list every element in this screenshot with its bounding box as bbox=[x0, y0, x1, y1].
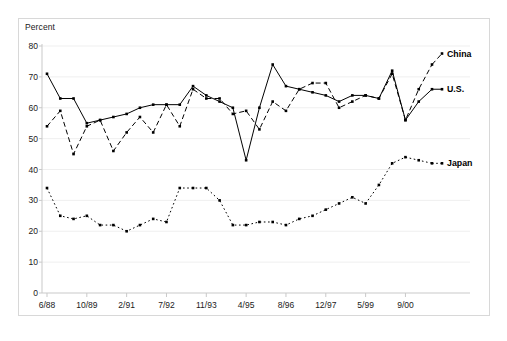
data-point bbox=[285, 224, 288, 227]
y-tick-label: 60 bbox=[16, 103, 38, 113]
data-point bbox=[152, 218, 155, 221]
data-point bbox=[351, 100, 354, 103]
data-point bbox=[271, 100, 274, 103]
data-point bbox=[417, 100, 420, 103]
data-point bbox=[298, 218, 301, 221]
data-point bbox=[165, 221, 168, 224]
data-point bbox=[391, 69, 394, 72]
data-point bbox=[218, 100, 221, 103]
data-point bbox=[364, 202, 367, 205]
data-point bbox=[59, 215, 62, 218]
data-point bbox=[311, 82, 314, 85]
data-point bbox=[192, 85, 195, 88]
data-point bbox=[441, 162, 444, 165]
y-tick-label: 30 bbox=[16, 195, 38, 205]
data-point bbox=[192, 187, 195, 190]
data-point bbox=[271, 63, 274, 66]
data-point bbox=[258, 128, 261, 131]
data-point bbox=[311, 215, 314, 218]
x-tick-label: 4/95 bbox=[225, 300, 267, 310]
data-point bbox=[378, 184, 381, 187]
x-tick-label: 2/91 bbox=[106, 300, 148, 310]
data-point bbox=[285, 85, 288, 88]
data-point bbox=[245, 159, 248, 162]
x-tick-label: 12/97 bbox=[305, 300, 347, 310]
y-tick-label: 0 bbox=[16, 288, 38, 298]
data-point bbox=[72, 97, 75, 100]
y-tick-label: 10 bbox=[16, 257, 38, 267]
data-point bbox=[324, 208, 327, 211]
data-point bbox=[46, 72, 49, 75]
data-point bbox=[125, 113, 128, 116]
data-point bbox=[139, 116, 142, 119]
x-tick-label: 9/00 bbox=[384, 300, 426, 310]
data-point bbox=[72, 218, 75, 221]
data-point bbox=[245, 110, 248, 113]
data-point bbox=[378, 97, 381, 100]
data-point bbox=[404, 156, 407, 159]
data-point bbox=[86, 125, 89, 128]
data-point bbox=[417, 88, 420, 91]
data-point bbox=[324, 94, 327, 97]
data-point bbox=[417, 159, 420, 162]
data-point bbox=[86, 215, 89, 218]
data-point bbox=[391, 162, 394, 165]
series-line-china bbox=[47, 65, 432, 155]
chart-screenshot: Percent 010203040506070806/8810/892/917/… bbox=[0, 0, 507, 341]
series-label-china: China bbox=[447, 49, 471, 59]
data-point bbox=[338, 106, 341, 109]
data-point bbox=[165, 103, 168, 106]
data-point bbox=[285, 110, 288, 113]
y-tick-label: 80 bbox=[16, 41, 38, 51]
chart-plot-area bbox=[0, 0, 507, 341]
data-point bbox=[391, 72, 394, 75]
data-point bbox=[205, 94, 208, 97]
data-point bbox=[205, 97, 208, 100]
data-point bbox=[441, 88, 444, 91]
data-point bbox=[112, 150, 115, 153]
data-point bbox=[178, 103, 181, 106]
y-tick-label: 50 bbox=[16, 134, 38, 144]
data-point bbox=[205, 187, 208, 190]
data-point bbox=[125, 230, 128, 233]
series-label-japan: Japan bbox=[447, 158, 472, 168]
data-point bbox=[192, 88, 195, 91]
data-point bbox=[152, 103, 155, 106]
data-point bbox=[271, 221, 274, 224]
x-tick-label: 7/92 bbox=[145, 300, 187, 310]
data-point bbox=[59, 97, 62, 100]
y-tick-label: 20 bbox=[16, 226, 38, 236]
data-point bbox=[112, 116, 115, 119]
x-tick-label: 11/93 bbox=[185, 300, 227, 310]
data-point bbox=[245, 224, 248, 227]
data-point bbox=[99, 224, 102, 227]
data-point bbox=[99, 119, 102, 122]
data-point bbox=[232, 113, 235, 116]
data-point bbox=[351, 196, 354, 199]
data-point bbox=[178, 187, 181, 190]
x-tick-label: 6/88 bbox=[26, 300, 68, 310]
data-point bbox=[441, 52, 444, 55]
data-point bbox=[72, 153, 75, 156]
y-tick-label: 70 bbox=[16, 72, 38, 82]
data-point bbox=[338, 202, 341, 205]
data-point bbox=[178, 125, 181, 128]
data-point bbox=[258, 221, 261, 224]
x-tick-label: 5/99 bbox=[345, 300, 387, 310]
data-point bbox=[46, 187, 49, 190]
data-point bbox=[139, 106, 142, 109]
x-tick-label: 10/89 bbox=[66, 300, 108, 310]
data-point bbox=[351, 94, 354, 97]
data-point bbox=[152, 131, 155, 134]
data-point bbox=[112, 224, 115, 227]
data-point bbox=[258, 106, 261, 109]
data-point bbox=[125, 131, 128, 134]
series-line-japan bbox=[47, 157, 432, 231]
data-point bbox=[338, 100, 341, 103]
series-label-us: U.S. bbox=[447, 84, 464, 94]
data-point bbox=[232, 224, 235, 227]
data-point bbox=[311, 91, 314, 94]
data-point bbox=[404, 119, 407, 122]
data-point bbox=[324, 82, 327, 85]
data-point bbox=[218, 199, 221, 202]
